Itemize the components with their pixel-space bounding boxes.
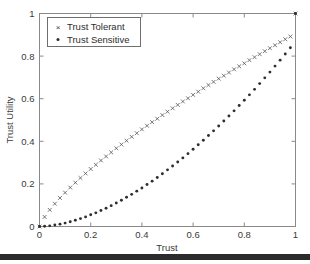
data-point-marker bbox=[115, 202, 118, 205]
data-point-marker bbox=[289, 46, 292, 49]
y-tick-label: 0.8 bbox=[21, 51, 34, 62]
data-point-marker bbox=[279, 59, 282, 62]
x-tick-label: 1 bbox=[293, 229, 298, 240]
x-axis-tick-labels: 00.20.40.60.81 bbox=[37, 229, 298, 240]
data-point-marker bbox=[156, 176, 159, 179]
y-axis-tick-labels: 00.20.40.60.81 bbox=[21, 8, 34, 232]
x-axis-title: Trust bbox=[156, 242, 178, 253]
data-point-marker bbox=[105, 207, 108, 210]
data-point-marker bbox=[130, 193, 133, 196]
x-tick-label: 0.2 bbox=[84, 229, 97, 240]
data-point-marker bbox=[253, 88, 256, 91]
y-tick-label: 0.2 bbox=[21, 178, 34, 189]
data-point-marker bbox=[79, 217, 82, 220]
data-point-marker bbox=[181, 156, 184, 159]
data-point-marker bbox=[120, 199, 123, 202]
legend-marker-dot-icon bbox=[57, 38, 60, 41]
data-point-marker bbox=[248, 93, 251, 96]
data-point-marker bbox=[151, 180, 154, 183]
legend[interactable]: × Trust Tolerant Trust Sensitive bbox=[48, 18, 141, 47]
data-point-marker bbox=[161, 172, 164, 175]
data-point-marker bbox=[166, 168, 169, 171]
legend-label-trust-sensitive: Trust Sensitive bbox=[67, 34, 129, 45]
data-point-marker bbox=[53, 224, 56, 227]
data-point-marker bbox=[38, 225, 41, 228]
x-tick-label: 0 bbox=[37, 229, 42, 240]
y-tick-label: 1 bbox=[29, 8, 34, 19]
data-point-marker bbox=[59, 223, 62, 226]
data-point-marker bbox=[110, 204, 113, 207]
data-point-marker bbox=[43, 225, 46, 228]
data-point-marker bbox=[263, 76, 266, 79]
data-point-marker bbox=[258, 82, 261, 85]
data-point-marker bbox=[192, 148, 195, 151]
data-point-marker bbox=[69, 220, 72, 223]
data-point-marker bbox=[187, 152, 190, 155]
legend-marker-x-icon: × bbox=[56, 23, 61, 32]
data-point-marker bbox=[284, 53, 287, 56]
chart-plot: 00.20.40.60.81 00.20.40.60.81 Trust Trus… bbox=[0, 0, 310, 264]
legend-entry-trust-sensitive[interactable]: Trust Sensitive bbox=[57, 34, 130, 45]
data-point-marker bbox=[227, 115, 230, 118]
y-tick-label: 0.4 bbox=[21, 136, 34, 147]
legend-entry-trust-tolerant[interactable]: × Trust Tolerant bbox=[56, 21, 125, 32]
data-point-marker bbox=[64, 222, 67, 225]
data-point-marker bbox=[135, 190, 138, 193]
data-point-marker bbox=[125, 196, 128, 199]
data-point-marker bbox=[197, 143, 200, 146]
data-point-marker bbox=[84, 215, 87, 218]
data-point-marker bbox=[202, 139, 205, 142]
x-tick-label: 0.6 bbox=[186, 229, 199, 240]
data-point-marker bbox=[238, 104, 241, 107]
x-tick-label: 0.4 bbox=[135, 229, 148, 240]
figure-canvas: 00.20.40.60.81 00.20.40.60.81 Trust Trus… bbox=[0, 0, 310, 264]
data-point-marker bbox=[176, 161, 179, 164]
data-point-marker bbox=[48, 224, 51, 227]
data-point-marker bbox=[89, 213, 92, 216]
data-point-marker bbox=[243, 99, 246, 102]
x-tick-label: 0.8 bbox=[238, 229, 251, 240]
data-point-marker bbox=[294, 12, 297, 15]
data-point-marker bbox=[222, 120, 225, 123]
data-point-marker bbox=[94, 211, 97, 214]
data-point-marker bbox=[99, 209, 102, 212]
y-tick-label: 0.6 bbox=[21, 93, 34, 104]
data-point-marker bbox=[74, 219, 77, 222]
data-point-marker bbox=[171, 165, 174, 168]
data-point-marker bbox=[268, 71, 271, 74]
bottom-separator-bar bbox=[0, 254, 310, 260]
y-axis-title: Trust Utility bbox=[4, 96, 15, 143]
y-tick-label: 0 bbox=[29, 221, 34, 232]
data-point-marker bbox=[274, 65, 277, 68]
data-point-marker bbox=[146, 183, 149, 186]
data-point-marker bbox=[207, 134, 210, 137]
data-point-marker bbox=[217, 125, 220, 128]
legend-label-trust-tolerant: Trust Tolerant bbox=[67, 21, 125, 32]
data-point-marker bbox=[233, 109, 236, 112]
data-point-marker bbox=[140, 186, 143, 189]
data-point-marker bbox=[212, 129, 215, 132]
